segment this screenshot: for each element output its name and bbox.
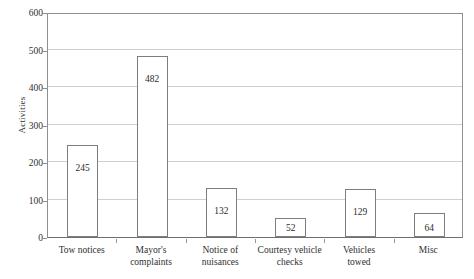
y-tick-mark [43,238,47,239]
bar-value-label: 132 [206,206,237,216]
y-tick-label: 500 [0,46,43,56]
category-label-line: towed [316,257,401,269]
y-tick-label: 400 [0,83,43,93]
x-tick-mark [255,239,256,243]
gridline [48,199,462,200]
gridline [48,49,462,50]
x-tick-mark [116,239,117,243]
category-label-line: Misc [386,245,471,257]
bar-value-label: 52 [275,223,306,233]
bar-value-label: 482 [137,74,168,84]
plot-area: 2454821325212964 [47,13,463,238]
gridline [48,124,462,125]
y-tick-label: 200 [0,158,43,168]
gridline [48,86,462,87]
x-tick-mark [186,239,187,243]
y-tick-label: 0 [0,233,43,243]
bar-value-label: 129 [345,207,376,217]
y-tick-label: 300 [0,121,43,131]
x-tick-mark [324,239,325,243]
bar [67,145,98,237]
y-tick-label: 100 [0,196,43,206]
bar-value-label: 64 [414,223,445,233]
y-tick-label: 600 [0,8,43,18]
gridline [48,161,462,162]
bar-chart: Activities 0100200300400500600 245482132… [0,0,474,279]
x-tick-mark [394,239,395,243]
y-axis-title: Activities [17,55,27,175]
category-label: Misc [386,245,471,257]
bar-value-label: 245 [67,163,98,173]
